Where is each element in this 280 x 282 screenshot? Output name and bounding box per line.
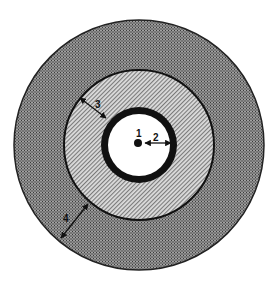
label-2: 2 [153,132,159,143]
label-1: 1 [136,128,142,139]
concentric-circle-diagram: 1 2 3 4 [0,0,280,282]
center-dot [134,139,142,147]
label-3: 3 [95,99,101,110]
label-4: 4 [63,213,69,224]
